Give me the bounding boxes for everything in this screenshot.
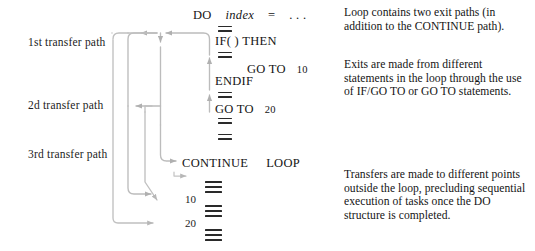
loop-top-right-return — [166, 33, 210, 55]
loop-keyword: LOOP — [266, 156, 300, 170]
goto-20-keyword: GO TO — [215, 102, 254, 116]
outer-rail-hidden — [111, 33, 145, 178]
rail-1st-upper — [124, 33, 150, 104]
do-variable: index — [226, 8, 255, 22]
label-2d-transfer-path: 2d transfer path — [28, 99, 103, 111]
arrow-3rd-transfer-continue — [174, 172, 186, 176]
statement-mark-inside-if — [218, 52, 232, 58]
statement-label-10: 10 — [185, 193, 196, 205]
statement-mark-post-loop-1 — [205, 181, 222, 193]
do-equals: = — [268, 8, 275, 22]
rail-1st-top-horizontal — [113, 33, 150, 39]
goto-10-target: 10 — [297, 64, 308, 75]
code-line-do: DO index = . . . — [193, 8, 306, 23]
statement-label-20: 20 — [185, 217, 196, 229]
line-2d-transfer-to-20 — [128, 106, 151, 194]
statement-mark-after-goto20 — [218, 118, 232, 124]
code-line-if-then: IF( ) THEN — [215, 34, 277, 49]
note-exit-statements: Exits are made from different statements… — [344, 58, 532, 99]
continue-keyword: CONTINUE — [182, 156, 248, 170]
code-line-goto-10: GO TO 10 — [247, 62, 308, 77]
code-line-endif: ENDIF — [215, 74, 253, 89]
arrow-to-label-10 — [145, 112, 157, 200]
statement-mark-post-loop-3 — [205, 229, 222, 241]
arrow-continue-entry — [161, 125, 177, 161]
statement-mark-loop-tail — [218, 134, 232, 140]
rail-2d-top-horizontal — [145, 106, 152, 112]
arrow-to-label-20 — [113, 40, 153, 223]
code-line-goto-20: GO TO 20 — [215, 102, 276, 117]
note-exit-paths: Loop contains two exit paths (in additio… — [344, 6, 532, 33]
code-line-continue-loop: CONTINUE LOOP — [182, 156, 300, 171]
do-keyword: DO — [193, 8, 212, 22]
goto-20-target: 20 — [265, 104, 276, 115]
do-ellipsis: . . . — [289, 8, 306, 22]
line-1st-transfer-down-upper — [128, 33, 157, 106]
statement-mark-after-endif — [218, 92, 232, 98]
statement-mark-post-loop-2 — [205, 205, 222, 217]
note-transfers: Transfers are made to different points o… — [344, 168, 532, 222]
statement-mark-after-do — [218, 26, 232, 32]
label-3rd-transfer-path: 3rd transfer path — [28, 148, 107, 160]
label-1st-transfer-path: 1st transfer path — [28, 36, 106, 48]
figure-canvas: 1st transfer path 2d transfer path 3rd t… — [0, 0, 535, 251]
